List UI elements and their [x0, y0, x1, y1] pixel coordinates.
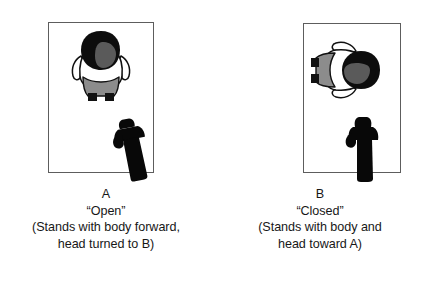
panel-a-label: A [0, 186, 212, 203]
panel-a-description-line-2: head turned to B) [0, 236, 212, 253]
top-down-person-a [68, 30, 134, 102]
caption-a: A “Open” (Stands with body forward, head… [0, 186, 212, 252]
panel-b-description-line-2: head toward A) [214, 236, 426, 253]
silhouette-observer-a [112, 116, 156, 182]
caption-b: B “Closed” (Stands with body and head to… [214, 186, 426, 252]
panel-b-description-line-1: (Stands with body and [214, 219, 426, 236]
panel-b-condition: “Closed” [214, 203, 426, 220]
silhouette-observer-b [344, 115, 386, 183]
figure-canvas: A “Open” (Stands with body forward, head… [0, 0, 426, 282]
panel-a-condition: “Open” [0, 203, 212, 220]
panel-a-description-line-1: (Stands with body forward, [0, 219, 212, 236]
panel-b-label: B [214, 186, 426, 203]
top-down-person-b [320, 40, 384, 92]
